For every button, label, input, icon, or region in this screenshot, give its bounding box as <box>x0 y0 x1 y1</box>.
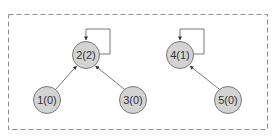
node-3-label: 3(0) <box>123 94 143 106</box>
edge-5-to-4 <box>190 66 219 89</box>
node-1[interactable]: 1(0) <box>34 87 61 114</box>
node-2[interactable]: 2(2) <box>73 42 100 69</box>
node-4-label: 4(1) <box>170 49 190 61</box>
node-4[interactable]: 4(1) <box>167 42 194 69</box>
node-5-label: 5(0) <box>218 94 238 106</box>
graph-canvas: 2(2) 4(1) 1(0) 3(0) 5(0) <box>0 0 273 139</box>
node-2-label: 2(2) <box>76 49 96 61</box>
edge-3-to-2 <box>96 66 125 89</box>
node-3[interactable]: 3(0) <box>120 87 147 114</box>
edge-1-to-2 <box>56 66 77 89</box>
node-1-label: 1(0) <box>37 94 57 106</box>
node-5[interactable]: 5(0) <box>215 87 242 114</box>
